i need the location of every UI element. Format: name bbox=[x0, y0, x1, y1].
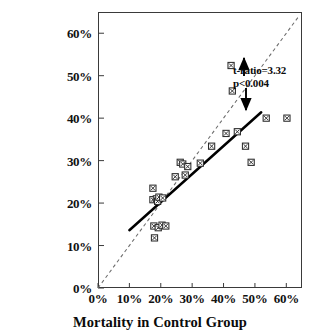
y-axis-label-20pct: 20% bbox=[46, 197, 92, 210]
y-axis-tick-labels: 0%10%20%30%40%50%60% bbox=[40, 0, 92, 335]
y-axis-label-10pct: 10% bbox=[46, 240, 92, 253]
x-axis-label-60pct: 60% bbox=[263, 292, 309, 305]
plot-area-frame bbox=[98, 12, 302, 288]
y-axis-label-30pct: 30% bbox=[46, 155, 92, 168]
y-axis-label-60pct: 60% bbox=[46, 27, 92, 40]
x-axis-title: Mortality in Control Group bbox=[0, 314, 320, 331]
scatter-plot-figure: 0%10%20%30%40%50%60% 0%10%20%30%40%50%60… bbox=[0, 0, 320, 335]
y-axis-label-50pct: 50% bbox=[46, 70, 92, 83]
statistics-annotation: t-ratio=3.32 p<0.004 bbox=[233, 64, 286, 90]
annotation-t-ratio: t-ratio=3.32 bbox=[233, 64, 286, 77]
y-axis-label-40pct: 40% bbox=[46, 112, 92, 125]
x-axis-tick-labels: 0%10%20%30%40%50%60% bbox=[0, 292, 320, 314]
annotation-p-value: p<0.004 bbox=[233, 77, 286, 90]
